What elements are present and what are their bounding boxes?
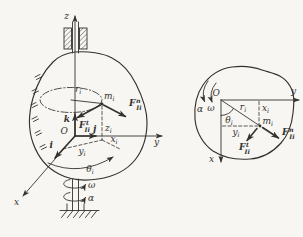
ground-icon xyxy=(60,204,99,218)
radius-label: ri xyxy=(75,84,81,95)
alpha-label: α xyxy=(197,104,203,114)
theta-angle-label: θi xyxy=(225,115,232,126)
y-axis-label: y xyxy=(290,86,297,96)
normal-inertia-force-label: FnIi xyxy=(281,126,295,141)
mass-point-label: mi xyxy=(263,116,274,127)
rotor-top-view: y x O α ω ri θi xi yi mi FnIi FtIi xyxy=(195,66,299,164)
omega-label: ω xyxy=(207,103,215,113)
x-axis-label: x xyxy=(14,197,19,207)
omega-spiral-arrow xyxy=(64,180,86,189)
y-coordinate-label: yi xyxy=(231,127,239,138)
alpha-spiral-arrow xyxy=(64,193,86,202)
z-coordinate-label: zi xyxy=(104,123,112,134)
x-coordinate-label: xi xyxy=(262,103,269,114)
z-axis-label: z xyxy=(63,11,69,21)
rotor-3d-view: z ri mi FnIi FtIi k xyxy=(14,11,162,218)
normal-inertia-force-arrow xyxy=(104,105,126,117)
omega-label: ω xyxy=(88,180,96,190)
y-coordinate-label: yi xyxy=(77,146,85,157)
mass-point-label: mi xyxy=(104,91,115,102)
tangential-inertia-force-arrow xyxy=(78,105,101,118)
theta-angle-arc xyxy=(48,157,113,169)
rotor-body-outline xyxy=(30,52,147,180)
origin-label: O xyxy=(213,88,221,98)
tangential-inertia-force-label: FtIi xyxy=(78,119,91,134)
radius-label: ri xyxy=(240,102,246,113)
tangential-inertia-force-label: FtIi xyxy=(238,141,251,156)
bearing-block-left-icon xyxy=(64,28,72,49)
mass-point xyxy=(259,125,262,128)
unit-vector-k-label: k xyxy=(64,114,70,124)
unit-vector-i-label: i xyxy=(50,140,54,150)
normal-inertia-force-arrow xyxy=(263,128,279,139)
body-edge-shading-ticks xyxy=(31,75,47,150)
mechanics-figure: z ri mi FnIi FtIi k xyxy=(0,0,303,237)
x-axis-label: x xyxy=(209,154,214,164)
alpha-label: α xyxy=(88,193,94,203)
normal-inertia-force-label: FnIi xyxy=(128,97,142,112)
unit-vector-j-label: j xyxy=(91,124,97,134)
tangential-inertia-force-arrow xyxy=(247,129,257,141)
y-axis-label: y xyxy=(153,137,160,147)
rotor-inertia-force-diagram: z ri mi FnIi FtIi k xyxy=(0,0,303,237)
bearing-block-right-icon xyxy=(80,28,88,49)
origin-label: O xyxy=(61,126,69,136)
radius-line xyxy=(71,100,102,104)
